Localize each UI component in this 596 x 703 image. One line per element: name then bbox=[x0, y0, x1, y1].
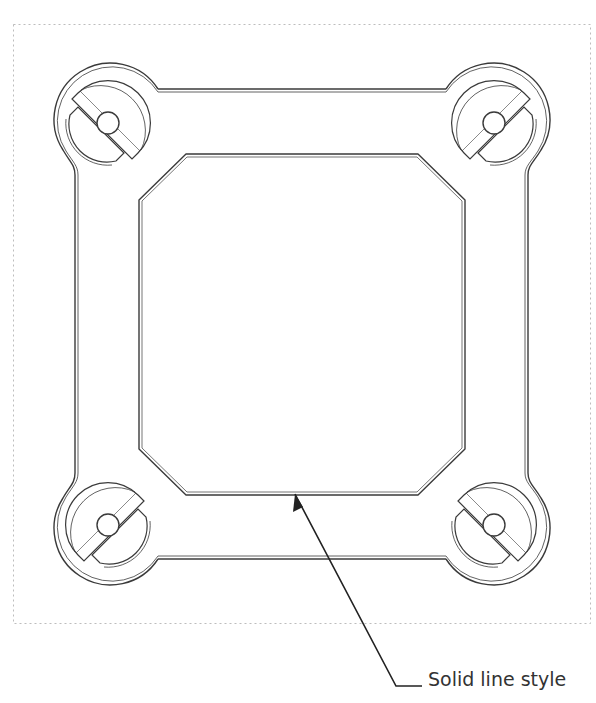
mount-hole-bottom-right bbox=[446, 483, 537, 574]
arrowhead-icon bbox=[293, 494, 303, 512]
inner-opening-outline bbox=[139, 154, 465, 495]
callout-label: Solid line style bbox=[428, 670, 566, 689]
technical-drawing bbox=[0, 0, 596, 703]
mount-hole-top-right bbox=[452, 81, 543, 172]
mount-hole-top-left bbox=[60, 81, 151, 172]
drawing-frame bbox=[14, 25, 591, 624]
callout-leader bbox=[293, 494, 422, 686]
mount-hole-bottom-left bbox=[66, 483, 157, 574]
